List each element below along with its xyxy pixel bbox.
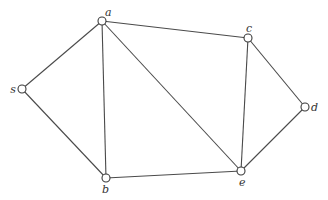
node-label-d: d [311, 101, 318, 114]
edge-b-e [106, 171, 241, 178]
edge-e-d [241, 107, 305, 171]
nodes-layer [18, 17, 309, 182]
edge-c-e [241, 38, 248, 171]
node-s [18, 85, 26, 93]
node-d [301, 103, 309, 111]
labels-layer: acsbed [10, 6, 318, 196]
node-label-e: e [239, 176, 246, 189]
edge-a-e [102, 21, 241, 171]
edge-s-b [22, 89, 106, 178]
edge-a-c [102, 21, 248, 38]
node-label-b: b [102, 183, 109, 196]
node-label-a: a [105, 6, 112, 19]
edge-c-d [248, 38, 305, 107]
edges-layer [22, 21, 305, 178]
graph-diagram: acsbed [0, 0, 328, 200]
node-label-s: s [10, 83, 16, 96]
edge-s-a [22, 21, 102, 89]
node-b [102, 174, 110, 182]
node-label-c: c [246, 22, 252, 35]
node-e [237, 167, 245, 175]
node-c [244, 34, 252, 42]
edge-a-b [102, 21, 106, 178]
